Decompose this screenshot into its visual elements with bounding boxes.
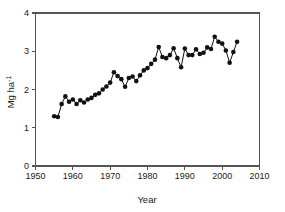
data-point — [183, 46, 188, 51]
data-point — [231, 50, 236, 55]
x-tick-label: 1990 — [175, 171, 195, 181]
y-tick-label: 1 — [24, 123, 29, 133]
data-point — [115, 74, 120, 79]
data-point — [224, 48, 229, 53]
data-point — [100, 87, 105, 92]
chart-figure: 01234 1950196019701980199020002010 Year … — [0, 0, 285, 212]
data-point — [179, 65, 184, 70]
plot-frame — [36, 13, 261, 166]
data-point — [59, 102, 64, 107]
yield-vs-year-line-chart: 01234 1950196019701980199020002010 Year … — [0, 0, 285, 212]
data-point — [171, 46, 176, 51]
x-tick-label: 1950 — [25, 171, 45, 181]
data-point — [220, 41, 225, 46]
y-axis-ticks: 01234 — [24, 8, 36, 171]
data-point — [138, 73, 143, 78]
data-point — [209, 47, 214, 52]
y-tick-label: 3 — [24, 46, 29, 56]
x-tick-label: 2010 — [249, 171, 269, 181]
data-point — [212, 34, 217, 39]
data-point — [235, 39, 240, 44]
data-point — [123, 85, 128, 90]
data-point — [112, 70, 117, 75]
data-point — [190, 53, 195, 58]
data-point — [108, 80, 113, 85]
data-point — [227, 60, 232, 65]
data-point — [175, 56, 180, 61]
data-point — [63, 94, 68, 99]
data-point — [134, 79, 139, 84]
data-point — [168, 53, 173, 58]
data-point — [145, 66, 150, 71]
data-point — [104, 84, 109, 89]
y-axis-title-exponent: -1 — [5, 76, 12, 82]
data-point — [56, 115, 61, 120]
y-tick-label: 2 — [24, 85, 29, 95]
data-point — [130, 74, 135, 79]
series-markers — [52, 34, 240, 119]
data-point — [149, 62, 154, 67]
x-axis-ticks: 1950196019701980199020002010 — [25, 166, 269, 181]
data-series-yield — [52, 34, 240, 119]
y-axis-title: Mg ha-1 — [5, 76, 17, 109]
x-axis-title: Year — [137, 194, 156, 205]
y-tick-label: 4 — [24, 8, 29, 18]
data-point — [194, 47, 199, 52]
x-tick-label: 1960 — [63, 171, 83, 181]
y-axis-title-base: Mg ha — [5, 81, 16, 108]
data-point — [156, 45, 161, 50]
data-point — [97, 91, 102, 96]
x-tick-label: 2000 — [212, 171, 232, 181]
x-tick-label: 1980 — [137, 171, 157, 181]
data-point — [71, 97, 76, 102]
data-point — [82, 100, 87, 105]
data-point — [164, 56, 169, 61]
data-point — [201, 50, 206, 55]
y-tick-label: 0 — [24, 161, 29, 171]
data-point — [153, 57, 158, 62]
data-point — [119, 77, 124, 82]
data-point — [74, 102, 79, 107]
x-tick-label: 1970 — [100, 171, 120, 181]
data-point — [89, 96, 94, 101]
